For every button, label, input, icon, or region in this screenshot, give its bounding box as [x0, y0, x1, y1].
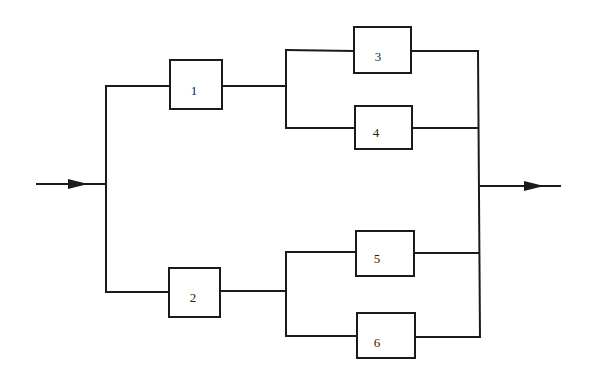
output-arrow [479, 181, 560, 191]
output-arrowhead-icon [524, 181, 544, 191]
block-3: 3 [354, 27, 411, 73]
input-arrow [37, 179, 106, 189]
block-6: 6 [357, 313, 415, 358]
block-3-label: 3 [375, 49, 382, 64]
wire-to-block-3 [286, 50, 354, 51]
block-6-label: 6 [374, 335, 381, 350]
input-arrowhead-icon [68, 179, 88, 189]
block-5-label: 5 [374, 251, 381, 266]
output-merge-bus [478, 51, 480, 337]
block-2: 2 [169, 268, 220, 317]
reliability-block-diagram: 1 2 3 4 5 6 [0, 0, 590, 384]
block-4: 4 [355, 106, 412, 149]
block-1: 1 [170, 60, 222, 109]
block-5: 5 [356, 231, 414, 276]
block-2-label: 2 [190, 290, 197, 305]
block-1-label: 1 [191, 83, 198, 98]
block-4-label: 4 [373, 125, 380, 140]
